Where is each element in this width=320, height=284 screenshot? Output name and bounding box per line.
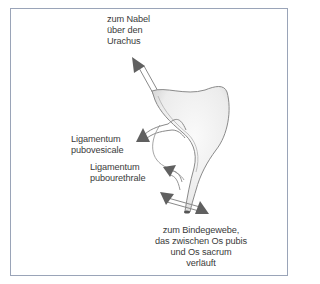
label-line: Urachus (107, 36, 150, 47)
arrowhead-lower-right-icon (195, 201, 209, 214)
label-bindegewebe: zum Bindegewebe, das zwischen Os pubis u… (137, 225, 265, 269)
label-line: zum Bindegewebe, (137, 225, 265, 236)
label-line: Ligamentum (90, 162, 145, 173)
label-line: das zwischen Os pubis (137, 236, 265, 247)
label-pubourethrale: Ligamentum pubourethrale (90, 162, 145, 184)
label-pubovesicale: Ligamentum pubovesicale (71, 134, 123, 156)
label-line: zum Nabel (107, 14, 150, 25)
label-line: und Os sacrum (137, 247, 265, 258)
arrowhead-pubovesicale-icon (136, 128, 150, 142)
label-line: Ligamentum (71, 134, 123, 145)
label-line: über den (107, 25, 150, 36)
arrowhead-urachus-icon (132, 57, 145, 73)
label-line: pubourethrale (90, 173, 145, 184)
lower-ligament-band (167, 198, 200, 211)
label-line: verläuft (137, 258, 265, 269)
urethra-opening (184, 211, 190, 214)
label-urachus: zum Nabel über den Urachus (107, 14, 150, 47)
pubourethrale-ligament (170, 171, 182, 190)
label-line: pubovesicale (71, 145, 123, 156)
